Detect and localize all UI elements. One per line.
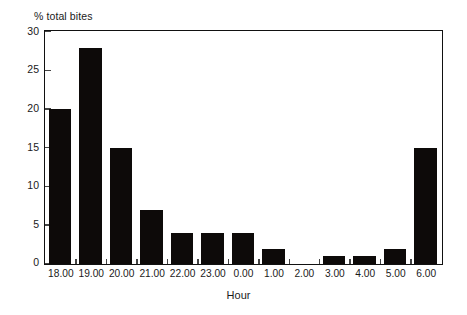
y-tick-label-20: 20 [12,102,39,114]
y-tick-30 [45,31,51,32]
x-axis-title-text: Hour [227,289,251,301]
bar-4.00 [353,256,376,264]
x-tick-label-0.00: 0.00 [228,268,258,279]
x-tick-label-3.00: 3.00 [320,268,350,279]
bar-5.00 [384,249,407,264]
x-tick-18.00 [75,259,76,264]
bar-6.00 [414,148,437,264]
bar-3.00 [323,256,346,264]
x-tick-label-19.00: 19.00 [76,268,106,279]
bar-1.00 [262,249,285,264]
y-tick-label-30: 30 [12,25,39,37]
x-tick-4.00 [380,259,381,264]
bar-19.00 [79,48,102,264]
x-tick-label-1.00: 1.00 [259,268,289,279]
bar-21.00 [140,210,163,264]
bar-chart-figure: % total bites 051015202530 18.0019.0020.… [0,0,467,315]
bar-0.00 [232,233,255,264]
x-tick-23.00 [228,259,229,264]
bar-18.00 [49,109,72,264]
bar-20.00 [110,148,133,264]
x-tick-2.00 [319,259,320,264]
y-tick-label-15: 15 [12,141,39,153]
x-tick-21.00 [167,259,168,264]
x-tick-label-20.00: 20.00 [106,268,136,279]
x-tick-1.00 [289,259,290,264]
x-tick-label-21.00: 21.00 [137,268,167,279]
x-tick-0.00 [258,259,259,264]
y-tick-label-10: 10 [12,179,39,191]
x-tick-19.00 [106,259,107,264]
bar-23.00 [201,233,224,264]
y-tick-label-5: 5 [12,218,39,230]
x-tick-label-4.00: 4.00 [350,268,380,279]
x-tick-label-18.00: 18.00 [46,268,76,279]
bar-22.00 [171,233,194,264]
x-tick-20.00 [136,259,137,264]
x-tick-label-23.00: 23.00 [198,268,228,279]
y-tick-label-0: 0 [12,256,39,268]
x-tick-22.00 [197,259,198,264]
x-tick-5.00 [410,259,411,264]
x-tick-label-22.00: 22.00 [167,268,197,279]
plot-area [44,30,443,265]
x-tick-3.00 [349,259,350,264]
x-tick-label-2.00: 2.00 [289,268,319,279]
y-axis-title: % total bites [34,10,93,22]
x-axis-title: Hour [0,289,467,301]
x-tick-label-5.00: 5.00 [381,268,411,279]
y-tick-label-25: 25 [12,63,39,75]
y-tick-25 [45,70,51,71]
x-tick-label-6.00: 6.00 [411,268,441,279]
